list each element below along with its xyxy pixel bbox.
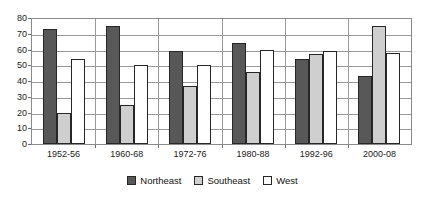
bar-group xyxy=(169,18,211,144)
bar-southeast-1952-56 xyxy=(57,113,71,145)
y-tick-label: 10 xyxy=(17,124,27,133)
y-tick-label: 20 xyxy=(17,108,27,117)
legend-label: Southeast xyxy=(207,176,250,186)
legend-label: West xyxy=(276,176,297,186)
legend-item-southeast[interactable]: Southeast xyxy=(194,176,250,186)
x-tick-mark xyxy=(158,145,159,148)
bar-southeast-1972-76 xyxy=(183,86,197,144)
y-tick-mark xyxy=(28,18,31,19)
bar-northeast-1980-88 xyxy=(232,43,246,144)
y-tick-mark xyxy=(28,97,31,98)
bar-southeast-1960-68 xyxy=(120,105,134,144)
legend-item-northeast[interactable]: Northeast xyxy=(127,176,181,186)
bar-northeast-1960-68 xyxy=(106,26,120,144)
legend-item-west[interactable]: West xyxy=(263,176,297,186)
bar-west-1960-68 xyxy=(134,65,148,144)
legend-label: Northeast xyxy=(140,176,181,186)
x-tick-label: 1952-56 xyxy=(47,150,80,159)
legend-swatch-west-icon xyxy=(263,176,272,185)
bars-layer xyxy=(32,18,411,144)
y-tick-label: 70 xyxy=(17,29,27,38)
y-tick-mark xyxy=(28,144,31,145)
y-axis: 80706050403020100 xyxy=(0,18,27,145)
x-tick-label: 1972-76 xyxy=(173,150,206,159)
y-tick-mark xyxy=(28,128,31,129)
x-tick-mark xyxy=(348,145,349,148)
x-tick-mark xyxy=(222,145,223,148)
y-tick-mark xyxy=(28,34,31,35)
y-tick-label: 0 xyxy=(22,140,27,149)
bar-group xyxy=(106,18,148,144)
bar-southeast-2000-08 xyxy=(372,26,386,144)
bar-west-1992-96 xyxy=(323,51,337,144)
y-tick-label: 80 xyxy=(17,14,27,23)
bar-west-1980-88 xyxy=(260,50,274,145)
x-tick-label: 1960-68 xyxy=(110,150,143,159)
y-tick-label: 30 xyxy=(17,92,27,101)
y-tick-label: 40 xyxy=(17,77,27,86)
y-tick-mark xyxy=(28,65,31,66)
x-axis: 1952-561960-681972-761980-881992-962000-… xyxy=(32,150,411,164)
chart-legend: NortheastSoutheastWest xyxy=(0,176,425,186)
legend-swatch-southeast-icon xyxy=(194,176,203,185)
bar-northeast-1992-96 xyxy=(295,59,309,144)
x-tick-label: 1980-88 xyxy=(237,150,270,159)
bar-northeast-1952-56 xyxy=(43,29,57,144)
y-tick-label: 50 xyxy=(17,61,27,70)
bar-southeast-1980-88 xyxy=(246,72,260,144)
y-tick-mark xyxy=(28,50,31,51)
bar-group xyxy=(295,18,337,144)
y-tick-mark xyxy=(28,113,31,114)
y-tick-label: 60 xyxy=(17,45,27,54)
x-tick-label: 1992-96 xyxy=(300,150,333,159)
bar-northeast-2000-08 xyxy=(358,76,372,144)
x-tick-label: 2000-08 xyxy=(363,150,396,159)
x-tick-mark xyxy=(95,145,96,148)
bar-southeast-1992-96 xyxy=(309,54,323,144)
bar-west-1972-76 xyxy=(197,65,211,144)
legend-swatch-northeast-icon xyxy=(127,176,136,185)
bar-group xyxy=(358,18,400,144)
bar-group xyxy=(43,18,85,144)
y-tick-mark xyxy=(28,81,31,82)
bar-west-2000-08 xyxy=(386,53,400,144)
x-tick-mark xyxy=(285,145,286,148)
bar-chart: 80706050403020100 1952-561960-681972-761… xyxy=(0,0,425,210)
bar-west-1952-56 xyxy=(71,59,85,144)
bar-northeast-1972-76 xyxy=(169,51,183,144)
bar-group xyxy=(232,18,274,144)
